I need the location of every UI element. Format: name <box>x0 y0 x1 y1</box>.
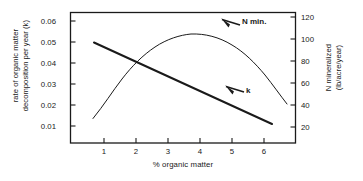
arrow-k <box>225 85 244 95</box>
axis-ticks <box>71 17 296 143</box>
plot-area <box>0 0 363 181</box>
plot-frame <box>71 13 296 144</box>
arrow-n-min <box>221 18 240 28</box>
chart-figure: rate of organic matter decomposition per… <box>0 0 363 181</box>
series-curve-n-min <box>93 34 287 119</box>
